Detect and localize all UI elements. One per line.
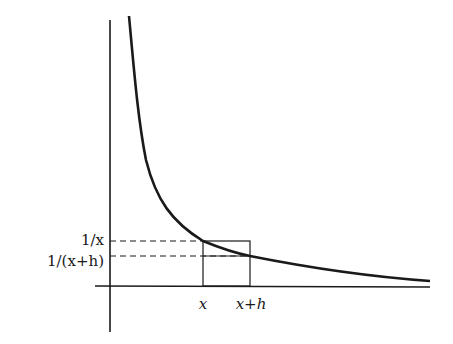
label-x: x	[199, 295, 208, 313]
hyperbola-diagram: 1/x 1/(x+h) x x+h	[0, 0, 453, 344]
x-axis	[95, 286, 430, 287]
label-x-plus-h: x+h	[236, 295, 267, 313]
label-1-over-x-plus-h: 1/(x+h)	[47, 252, 104, 270]
upper-rectangle	[203, 241, 250, 286]
label-1-over-x: 1/x	[81, 231, 105, 249]
